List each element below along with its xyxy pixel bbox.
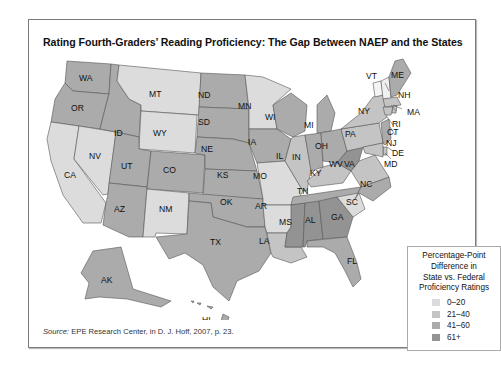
state-label: VT: [366, 71, 378, 81]
state-label: PA: [345, 129, 356, 139]
state-label: AZ: [114, 204, 125, 214]
state-label: NE: [201, 144, 213, 154]
legend-swatch: [432, 322, 440, 329]
state-label: CT: [387, 127, 399, 137]
state-label: AK: [101, 275, 113, 285]
state-label: NH: [398, 90, 410, 100]
state-label: VA: [344, 159, 355, 169]
state-CT: [383, 107, 393, 115]
state-label: NM: [159, 204, 172, 214]
state-label: MN: [238, 101, 251, 111]
state-label: ID: [114, 128, 123, 138]
state-label: UT: [121, 161, 133, 171]
state-label: MT: [149, 89, 162, 99]
state-WY: [139, 111, 197, 153]
state-label: WI: [265, 112, 276, 122]
state-label: SD: [198, 117, 210, 127]
legend-item: 0–20: [432, 297, 500, 309]
legend: Percentage-Point Difference in State vs.…: [407, 246, 501, 351]
state-label: CO: [163, 165, 176, 175]
state-label: WV: [329, 159, 343, 169]
legend-title: Percentage-Point Difference in State vs.…: [408, 251, 500, 294]
state-label: IN: [292, 152, 301, 162]
state-label: NJ: [386, 138, 397, 148]
state-label: KS: [217, 170, 229, 180]
state-label: IA: [248, 137, 256, 147]
state-label: KY: [310, 168, 322, 178]
state-label: NY: [358, 106, 370, 116]
state-label: HI: [202, 315, 211, 320]
state-label: OR: [71, 103, 84, 113]
state-label: CA: [64, 170, 76, 180]
state-AK: [81, 247, 171, 307]
state-DE: [383, 147, 387, 155]
state-AZ: [103, 183, 147, 237]
state-label: AL: [305, 215, 316, 225]
legend-item: 21–40: [432, 309, 500, 321]
state-label: TN: [297, 186, 308, 196]
state-label: FL: [347, 256, 357, 266]
state-label: MA: [407, 107, 420, 117]
state-label: ND: [198, 90, 210, 100]
state-label: OH: [315, 141, 328, 151]
state-label: ME: [391, 70, 404, 80]
state-label: NC: [360, 179, 372, 189]
legend-swatch: [432, 299, 440, 306]
state-label: MO: [253, 171, 267, 181]
state-label: AR: [255, 201, 267, 211]
state-label: SC: [346, 197, 358, 207]
legend-item: 61+: [432, 332, 500, 344]
state-label: WY: [153, 128, 167, 138]
state-label: OK: [220, 197, 233, 207]
source-note: Source: EPE Research Center, in D. J. Ho…: [43, 327, 234, 336]
legend-swatch: [432, 311, 440, 318]
legend-swatch: [432, 334, 440, 341]
state-label: IL: [276, 151, 283, 161]
state-label: GA: [331, 212, 344, 222]
state-label: MS: [279, 217, 292, 227]
state-CO: [147, 151, 205, 193]
state-MI: [317, 95, 335, 133]
state-label: TX: [210, 237, 221, 247]
state-label: MD: [384, 159, 397, 169]
map-figure: Rating Fourth-Graders’ Reading Proficien…: [28, 19, 476, 348]
state-label: NV: [89, 151, 101, 161]
state-label: LA: [259, 236, 270, 246]
state-label: DE: [392, 148, 404, 158]
state-label: MI: [304, 120, 314, 130]
legend-item: 41–60: [432, 320, 500, 332]
state-label: WA: [79, 73, 93, 83]
